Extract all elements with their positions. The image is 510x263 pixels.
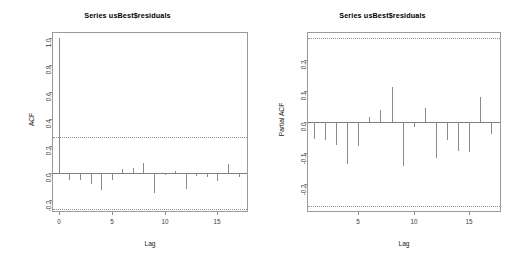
spike-lag-12 bbox=[186, 173, 187, 190]
spike-lag-12 bbox=[436, 122, 437, 158]
spike-lag-1 bbox=[69, 173, 70, 181]
acf-x-tick-label: 5 bbox=[100, 218, 124, 225]
spike-lag-13 bbox=[447, 122, 448, 140]
spike-lag-17 bbox=[239, 173, 240, 177]
spike-lag-8 bbox=[392, 87, 393, 122]
spike-lag-5 bbox=[112, 173, 113, 180]
spike-lag-3 bbox=[336, 122, 337, 145]
acf-x-tick bbox=[165, 212, 166, 215]
acf-y-axis-title: ACF bbox=[28, 105, 35, 135]
acf-plot-area bbox=[53, 33, 247, 211]
spike-lag-5 bbox=[358, 122, 359, 146]
plot-canvas: Series usBest$residuals ACF Lag 1.00.80.… bbox=[0, 0, 510, 263]
spike-lag-7 bbox=[133, 168, 134, 173]
acf-x-tick-label: 0 bbox=[47, 218, 71, 225]
spike-lag-4 bbox=[101, 173, 102, 191]
acf-panel: Series usBest$residuals ACF Lag 1.00.80.… bbox=[0, 0, 255, 263]
spike-lag-13 bbox=[196, 173, 197, 177]
pacf-panel: Series usBest$residuals Partial ACF Lag … bbox=[255, 0, 510, 263]
spike-lag-11 bbox=[425, 108, 426, 122]
acf-x-tick-label: 10 bbox=[153, 218, 177, 225]
spike-lag-9 bbox=[154, 173, 155, 193]
pacf-x-tick-label: 15 bbox=[457, 218, 481, 225]
acf-x-tick-label: 15 bbox=[205, 218, 229, 225]
spike-lag-8 bbox=[143, 163, 144, 173]
pacf-x-tick-label: 10 bbox=[402, 218, 426, 225]
pacf-plot-area bbox=[308, 33, 500, 211]
pacf-y-tick-label: 0.2 bbox=[300, 61, 307, 95]
pacf-x-axis-title: Lag bbox=[307, 240, 501, 247]
spike-lag-14 bbox=[458, 122, 459, 151]
spike-lag-0 bbox=[59, 38, 60, 172]
pacf-x-tick bbox=[358, 212, 359, 215]
acf-x-tick bbox=[59, 212, 60, 215]
acf-x-axis-title: Lag bbox=[52, 240, 248, 247]
spike-lag-2 bbox=[80, 173, 81, 180]
acf-upper-confidence-band bbox=[53, 137, 247, 138]
spike-lag-2 bbox=[325, 122, 326, 140]
acf-x-tick bbox=[112, 212, 113, 215]
pacf-upper-confidence-band bbox=[308, 38, 500, 39]
spike-lag-6 bbox=[369, 117, 370, 122]
pacf-y-tick-label: -0.1 bbox=[300, 154, 307, 188]
spike-lag-7 bbox=[380, 110, 381, 122]
spike-lag-15 bbox=[469, 122, 470, 152]
spike-lag-10 bbox=[414, 122, 415, 127]
pacf-plot-title: Series usBest$residuals bbox=[255, 11, 510, 20]
pacf-y-tick-label: 0.0 bbox=[300, 123, 307, 157]
pacf-x-tick bbox=[414, 212, 415, 215]
spike-lag-4 bbox=[347, 122, 348, 164]
spike-lag-17 bbox=[491, 122, 492, 134]
spike-lag-1 bbox=[314, 122, 315, 139]
spike-lag-16 bbox=[228, 164, 229, 173]
acf-x-tick bbox=[217, 212, 218, 215]
pacf-y-tick-label: -0.2 bbox=[300, 185, 307, 219]
acf-lower-confidence-band bbox=[53, 209, 247, 210]
pacf-y-tick-label: 0.1 bbox=[300, 92, 307, 126]
spike-lag-16 bbox=[480, 97, 481, 122]
spike-lag-15 bbox=[217, 173, 218, 181]
pacf-lower-confidence-band bbox=[308, 206, 500, 207]
acf-plot-title: Series usBest$residuals bbox=[0, 11, 255, 20]
spike-lag-11 bbox=[175, 171, 176, 172]
pacf-x-tick-label: 5 bbox=[346, 218, 370, 225]
spike-lag-9 bbox=[403, 122, 404, 166]
pacf-y-axis-title: Partial ACF bbox=[278, 99, 285, 141]
spike-lag-10 bbox=[165, 173, 166, 175]
pacf-x-tick bbox=[469, 212, 470, 215]
spike-lag-3 bbox=[91, 173, 92, 184]
spike-lag-14 bbox=[207, 173, 208, 177]
spike-lag-6 bbox=[122, 169, 123, 173]
